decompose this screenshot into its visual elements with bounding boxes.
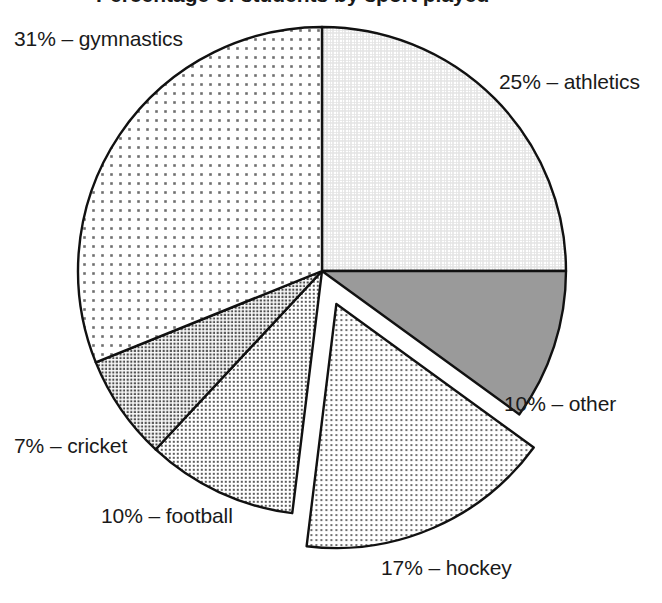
slice-label-football: 10% – football bbox=[101, 504, 233, 528]
pie-chart-figure: Percentage of students by sport played bbox=[0, 0, 662, 603]
slice-label-other: 10% – other bbox=[504, 392, 616, 416]
slice-label-gymnastics: 31% – gymnastics bbox=[14, 27, 183, 51]
slice-label-hockey: 17% – hockey bbox=[381, 556, 512, 580]
pie-slice-athletics[interactable] bbox=[322, 27, 566, 271]
slice-label-athletics: 25% – athletics bbox=[499, 70, 640, 94]
slice-label-cricket: 7% – cricket bbox=[14, 434, 127, 458]
